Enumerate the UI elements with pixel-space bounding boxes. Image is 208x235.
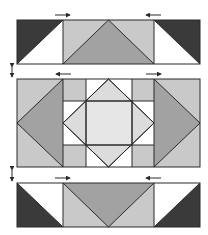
middle-right-block xyxy=(154,79,200,167)
top-row xyxy=(17,15,200,64)
corner-square xyxy=(63,79,86,101)
top-center-block xyxy=(63,20,154,64)
middle-left-block xyxy=(17,79,63,167)
corner-square xyxy=(132,79,154,101)
middle-row xyxy=(17,74,200,167)
top-left-block xyxy=(17,20,63,64)
bottom-left-block xyxy=(17,183,63,227)
bottom-right-block xyxy=(154,183,200,227)
quilt-diagram xyxy=(0,0,208,235)
center-square xyxy=(86,101,132,145)
top-right-block xyxy=(154,20,200,64)
corner-square xyxy=(132,145,154,167)
bottom-center-block xyxy=(63,183,154,227)
corner-square xyxy=(63,145,86,167)
bottom-row xyxy=(17,178,200,227)
middle-center-block xyxy=(63,79,154,167)
